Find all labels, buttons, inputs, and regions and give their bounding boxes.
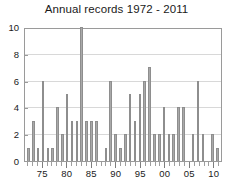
x-axis-tick	[105, 162, 106, 166]
bar	[124, 134, 127, 161]
x-axis-tick	[208, 162, 209, 166]
y-axis-tick-label: 4	[14, 103, 19, 113]
x-axis-tick-label: 95	[135, 168, 146, 179]
x-axis-tick	[184, 162, 185, 166]
y-axis-tick-label: 6	[14, 77, 19, 87]
y-axis-labels: 0246810	[0, 22, 21, 168]
y-axis-tick-label: 8	[14, 50, 19, 60]
y-axis-tick	[24, 55, 28, 56]
y-axis-tick	[24, 108, 28, 109]
bar	[85, 121, 88, 161]
bar	[37, 148, 40, 161]
bar	[143, 81, 146, 161]
x-axis-tick	[27, 162, 28, 166]
x-axis-tick-label: 90	[110, 168, 121, 179]
bar	[148, 67, 151, 161]
x-axis-tick	[194, 162, 195, 166]
bar	[27, 148, 30, 161]
x-axis-tick	[130, 162, 131, 166]
bar	[95, 121, 98, 161]
bar	[109, 81, 112, 161]
x-axis-tick	[135, 162, 136, 166]
bar	[197, 81, 200, 161]
bar	[177, 107, 180, 161]
bar	[202, 134, 205, 161]
bar-chart: Annual records 1972 - 2011 0246810 75808…	[0, 0, 233, 183]
x-axis-tick	[120, 162, 121, 166]
bar	[32, 121, 35, 161]
y-axis-tick-label: 0	[14, 157, 19, 167]
bar	[139, 94, 142, 161]
bar	[90, 121, 93, 161]
bar	[153, 134, 156, 161]
x-axis-tick	[61, 162, 62, 166]
x-axis-tick	[169, 162, 170, 166]
bar	[80, 27, 83, 161]
x-axis-tick	[204, 162, 205, 166]
x-axis-tick	[179, 162, 180, 166]
x-axis-tick	[76, 162, 77, 166]
bar	[61, 134, 64, 161]
bar	[211, 134, 214, 161]
x-axis-tick-label: 10	[208, 168, 219, 179]
bar	[119, 148, 122, 161]
bar	[56, 107, 59, 161]
x-axis-tick-label: 00	[159, 168, 170, 179]
x-axis-tick	[47, 162, 48, 166]
bar	[182, 107, 185, 161]
chart-title: Annual records 1972 - 2011	[0, 3, 233, 15]
x-axis-tick	[96, 162, 97, 166]
plot-area	[24, 28, 222, 162]
bar	[47, 148, 50, 161]
bar	[105, 148, 108, 161]
bar	[42, 81, 45, 161]
x-axis-tick	[174, 162, 175, 166]
bar	[129, 94, 132, 161]
x-axis-tick	[51, 162, 52, 166]
x-axis-tick	[145, 162, 146, 166]
x-axis-tick	[86, 162, 87, 166]
x-axis-tick	[218, 162, 219, 166]
y-axis-tick-label: 10	[8, 23, 19, 33]
y-axis-tick-label: 2	[14, 130, 19, 140]
x-axis-tick	[159, 162, 160, 166]
x-axis-tick-label: 80	[61, 168, 72, 179]
x-axis-labels: 7580859095000510	[24, 168, 222, 182]
x-axis-tick	[199, 162, 200, 166]
x-axis-tick-label: 85	[86, 168, 97, 179]
bar	[134, 121, 137, 161]
x-axis-tick	[101, 162, 102, 166]
bar	[76, 121, 79, 161]
bar	[114, 134, 117, 161]
bar-slot	[215, 29, 220, 161]
x-axis-tick	[32, 162, 33, 166]
x-axis-tick-label: 05	[184, 168, 195, 179]
x-axis-tick	[71, 162, 72, 166]
bar	[158, 134, 161, 161]
x-axis-tick	[110, 162, 111, 166]
bar	[71, 121, 74, 161]
bar	[172, 134, 175, 161]
x-axis-tick	[56, 162, 57, 166]
y-axis-tick	[24, 135, 28, 136]
x-axis-tick	[150, 162, 151, 166]
x-axis-tick	[81, 162, 82, 166]
y-axis-tick	[24, 82, 28, 83]
bar	[66, 94, 69, 161]
bar	[216, 148, 219, 161]
x-axis-tick	[155, 162, 156, 166]
bar	[163, 107, 166, 161]
bar-series	[25, 29, 221, 161]
bar	[51, 148, 54, 161]
bar	[168, 134, 171, 161]
bar	[192, 134, 195, 161]
x-axis-tick	[125, 162, 126, 166]
x-axis-tick	[37, 162, 38, 166]
x-axis-tick-label: 75	[37, 168, 48, 179]
